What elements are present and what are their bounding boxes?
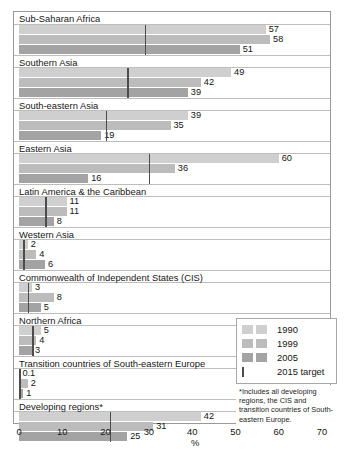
x-tick-label: 40 bbox=[187, 426, 197, 437]
bar-row: 2 bbox=[14, 240, 330, 249]
bar-row: 16 bbox=[14, 174, 330, 183]
bar-row: 6 bbox=[14, 260, 330, 269]
bar-2005 bbox=[19, 217, 54, 226]
x-tick-label: 70 bbox=[317, 426, 327, 437]
bar-1999 bbox=[19, 250, 36, 259]
bar-row: 36 bbox=[14, 164, 330, 173]
bar-row: 57 bbox=[14, 25, 330, 34]
x-tick-label: 60 bbox=[273, 426, 283, 437]
legend-item-1990: 1990 bbox=[242, 323, 332, 336]
bar-value-label: 8 bbox=[57, 292, 62, 303]
bar-value-label: 39 bbox=[191, 87, 201, 98]
bar-group: Commonwealth of Independent States (CIS)… bbox=[14, 270, 330, 312]
bar-value-label: 2 bbox=[31, 239, 36, 250]
legend-swatch-2005 bbox=[256, 353, 267, 362]
bar-2005 bbox=[19, 131, 101, 140]
bar-value-label: 1 bbox=[26, 388, 31, 399]
legend-swatch-1999 bbox=[256, 339, 267, 348]
bar-value-label: 3 bbox=[35, 282, 40, 293]
bar-value-label: 6 bbox=[48, 259, 53, 270]
bar-group-bars: 246 bbox=[14, 240, 330, 269]
target-marker-icon bbox=[45, 197, 47, 227]
bar-1999 bbox=[19, 207, 67, 216]
bar-2005 bbox=[19, 303, 41, 312]
bar-value-label: 16 bbox=[91, 173, 101, 184]
bar-row: 49 bbox=[14, 68, 330, 77]
bar-value-label: 5 bbox=[44, 302, 49, 313]
legend-item-2005: 2005 bbox=[242, 351, 332, 364]
legend-item-target: 2015 target bbox=[242, 365, 332, 378]
bar-value-label: 60 bbox=[282, 153, 292, 164]
bar-group: Latin America & the Caribbean11118 bbox=[14, 184, 330, 226]
bar-row: 8 bbox=[14, 217, 330, 226]
legend-item-1999: 1999 bbox=[242, 337, 332, 350]
bar-1999 bbox=[19, 336, 36, 345]
bar-group-label: Southern Asia bbox=[14, 55, 330, 68]
bar-1990 bbox=[19, 197, 67, 206]
legend-label-2005: 2005 bbox=[277, 352, 298, 363]
bar-1999 bbox=[19, 293, 54, 302]
bar-value-label: 4 bbox=[39, 249, 44, 260]
bar-group: Southern Asia494239 bbox=[14, 55, 330, 97]
bar-row: 35 bbox=[14, 121, 330, 130]
bar-group: Eastern Asia603616 bbox=[14, 141, 330, 183]
x-tick-label: 20 bbox=[100, 426, 110, 437]
legend-swatch-1990 bbox=[256, 325, 267, 334]
legend-label-target: 2015 target bbox=[277, 366, 324, 377]
bar-row: 19 bbox=[14, 131, 330, 140]
bar-2005 bbox=[19, 174, 88, 183]
bar-row: 5 bbox=[14, 303, 330, 312]
legend-target-marker-icon bbox=[242, 367, 272, 377]
bar-row: 11 bbox=[14, 207, 330, 216]
bar-2005 bbox=[19, 88, 188, 97]
legend-swatch-light-1990 bbox=[242, 325, 253, 334]
bar-value-label: 35 bbox=[174, 120, 184, 131]
bar-value-label: 36 bbox=[178, 163, 188, 174]
bar-row: 51 bbox=[14, 45, 330, 54]
bar-1999 bbox=[19, 164, 175, 173]
chart-legend: 1990 1999 2005 2015 target bbox=[236, 318, 337, 384]
legend-label-1990: 1990 bbox=[277, 324, 298, 335]
target-marker-icon bbox=[127, 68, 129, 98]
target-marker-icon bbox=[19, 369, 21, 399]
bar-row: 11 bbox=[14, 197, 330, 206]
x-axis-unit-label: % bbox=[191, 437, 199, 448]
bar-group-bars: 494239 bbox=[14, 68, 330, 97]
x-axis: % 010203040506070 bbox=[13, 424, 331, 448]
legend-swatch-light-2005 bbox=[242, 353, 253, 362]
legend-swatch-group-1999 bbox=[242, 339, 272, 348]
bar-group-label: South-eastern Asia bbox=[14, 98, 330, 111]
legend-swatch-group-1990 bbox=[242, 325, 272, 334]
bar-1990 bbox=[19, 68, 231, 77]
bar-row: 42 bbox=[14, 78, 330, 87]
bar-1990 bbox=[19, 25, 266, 34]
chart-figure: Sub-Saharan Africa575851Southern Asia494… bbox=[0, 0, 345, 461]
bar-1999 bbox=[19, 121, 171, 130]
bar-row: 60 bbox=[14, 154, 330, 163]
target-marker-icon bbox=[145, 25, 147, 55]
bar-value-label: 49 bbox=[234, 67, 244, 78]
bar-row: 39 bbox=[14, 88, 330, 97]
bar-group: South-eastern Asia393519 bbox=[14, 98, 330, 140]
bar-group-bars: 603616 bbox=[14, 154, 330, 183]
bar-value-label: 11 bbox=[70, 206, 80, 217]
bar-2005 bbox=[19, 45, 240, 54]
bar-group-label: Western Asia bbox=[14, 227, 330, 240]
bar-group-label: Sub-Saharan Africa bbox=[14, 12, 330, 25]
bar-1999 bbox=[19, 78, 201, 87]
target-marker-icon bbox=[32, 326, 34, 356]
legend-swatch-light-1999 bbox=[242, 339, 253, 348]
bar-value-label: 42 bbox=[204, 77, 214, 88]
target-marker-icon bbox=[28, 283, 30, 313]
bar-value-label: 3 bbox=[35, 345, 40, 356]
bar-group-label: Latin America & the Caribbean bbox=[14, 184, 330, 197]
bar-value-label: 51 bbox=[243, 44, 253, 55]
legend-swatch-group-2005 bbox=[242, 353, 272, 362]
bar-row: 4 bbox=[14, 250, 330, 259]
bar-group-bars: 393519 bbox=[14, 111, 330, 140]
bar-value-label: 42 bbox=[204, 411, 214, 422]
target-marker-icon bbox=[149, 154, 151, 184]
target-marker-icon bbox=[23, 240, 25, 270]
bar-group: Western Asia246 bbox=[14, 227, 330, 269]
bar-row: 58 bbox=[14, 35, 330, 44]
